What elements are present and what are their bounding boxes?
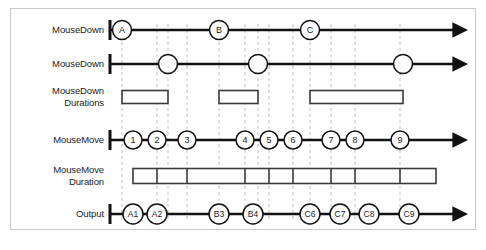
duration-bar [219, 91, 258, 104]
event-node-label: 7 [328, 135, 333, 145]
event-node-label: A [119, 25, 125, 35]
event-node-label: 6 [290, 135, 295, 145]
event-node-label: 1 [130, 135, 135, 145]
event-node-label: 4 [242, 135, 247, 145]
event-node-label: C [307, 25, 314, 35]
event-node-label: 3 [184, 135, 189, 145]
event-node-label: C6 [305, 209, 316, 219]
duration-bar [133, 169, 436, 184]
event-node [249, 55, 268, 74]
figure-caption [10, 236, 310, 248]
event-node-label: 5 [266, 135, 271, 145]
event-node-label: C9 [404, 209, 415, 219]
timeline-diagram: ABC123456789A1A2B3B4C6C7C8C9 [0, 0, 486, 250]
event-nodes-layer: ABC123456789A1A2B3B4C6C7C8C9 [113, 21, 420, 225]
duration-bar [122, 91, 168, 104]
event-node-label: A2 [152, 209, 163, 219]
axes-layer [110, 20, 455, 224]
event-node [394, 55, 413, 74]
event-node-label: B [216, 25, 222, 35]
event-node-label: A1 [128, 209, 139, 219]
event-node-label: B4 [248, 209, 259, 219]
event-node-label: 9 [397, 135, 402, 145]
event-node-label: 8 [352, 135, 357, 145]
event-node-label: B3 [214, 209, 225, 219]
event-node-label: C7 [335, 209, 346, 219]
event-node-label: 2 [154, 135, 159, 145]
event-node-label: C8 [364, 209, 375, 219]
duration-bar [310, 91, 403, 104]
guide-lines-layer [122, 24, 400, 222]
event-node [159, 55, 178, 74]
duration-bars-layer [122, 91, 436, 184]
figure-canvas: MouseDown MouseDown MouseDown Durations … [0, 0, 486, 250]
